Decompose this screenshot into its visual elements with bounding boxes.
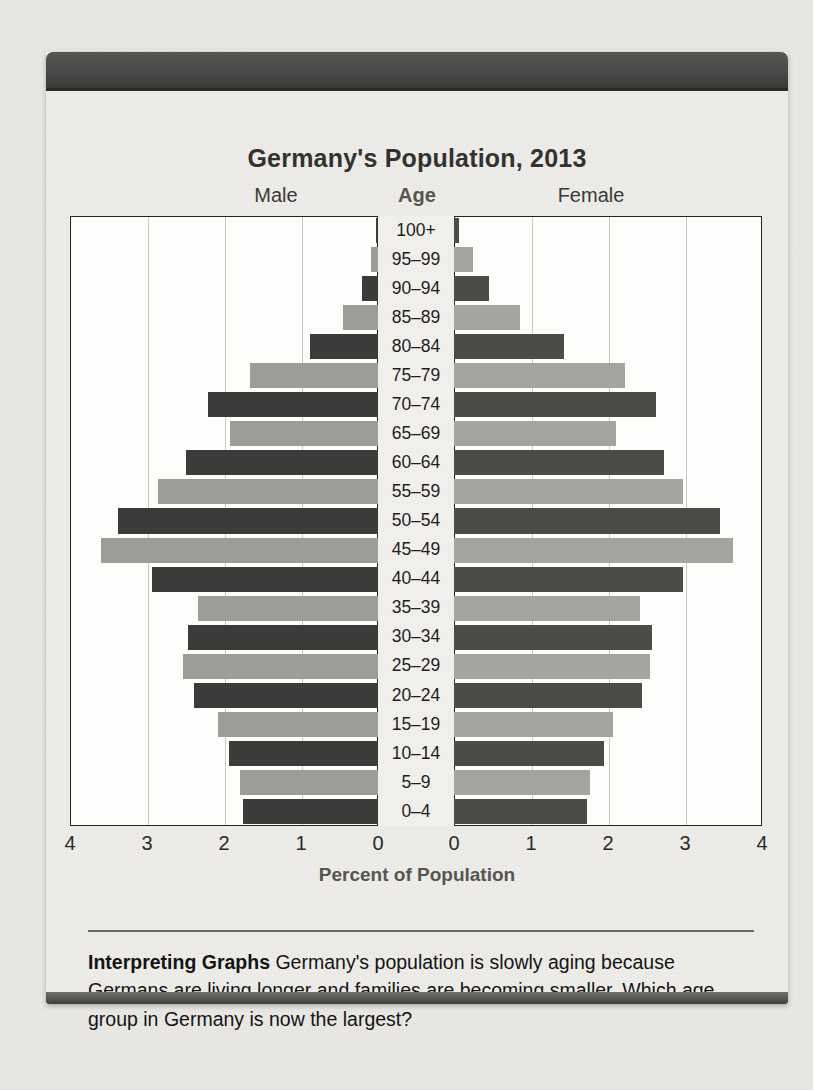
pyramid-row — [454, 594, 762, 623]
pyramid-row — [70, 797, 378, 826]
pyramid-row — [70, 419, 378, 448]
age-label: 15–19 — [378, 710, 454, 739]
female-bar — [454, 683, 642, 708]
pyramid-row — [454, 797, 762, 826]
male-bar — [208, 392, 378, 417]
female-bar — [454, 247, 473, 272]
pyramid-row — [454, 506, 762, 535]
pyramid-row — [454, 768, 762, 797]
female-bar — [454, 392, 656, 417]
pyramid-row — [70, 565, 378, 594]
pyramid-row — [454, 245, 762, 274]
female-column-header: Female — [496, 184, 686, 207]
age-label: 50–54 — [378, 506, 454, 535]
age-label: 65–69 — [378, 419, 454, 448]
pyramid-row — [70, 623, 378, 652]
age-label: 5–9 — [378, 768, 454, 797]
pyramid-row — [454, 652, 762, 681]
population-pyramid-plot: 100+95–9990–9485–8980–8475–7970–7465–696… — [70, 216, 770, 826]
female-bar — [454, 741, 604, 766]
x-axis-tick-labels: 4321001234 — [70, 832, 770, 858]
age-label: 35–39 — [378, 594, 454, 623]
female-bar — [454, 596, 640, 621]
pyramid-row — [454, 681, 762, 710]
male-bar — [158, 479, 378, 504]
male-bar — [101, 538, 378, 563]
male-bar — [240, 770, 378, 795]
x-tick-right-4: 4 — [756, 832, 767, 855]
pyramid-row — [70, 681, 378, 710]
pyramid-row — [70, 506, 378, 535]
age-label: 45–49 — [378, 536, 454, 565]
x-tick-right-0: 0 — [448, 832, 459, 855]
age-label: 20–24 — [378, 681, 454, 710]
age-label: 55–59 — [378, 477, 454, 506]
age-label: 80–84 — [378, 332, 454, 361]
age-label: 85–89 — [378, 303, 454, 332]
female-bar — [454, 567, 683, 592]
male-bar — [198, 596, 378, 621]
age-label: 25–29 — [378, 652, 454, 681]
pyramid-row — [70, 536, 378, 565]
pyramid-row — [70, 652, 378, 681]
male-bar — [183, 654, 378, 679]
male-bar-group — [70, 216, 378, 826]
pyramid-row — [454, 565, 762, 594]
pyramid-row — [70, 332, 378, 361]
female-bar — [454, 305, 520, 330]
pyramid-row — [454, 390, 762, 419]
pyramid-row — [454, 536, 762, 565]
female-bar — [454, 625, 652, 650]
female-bar-group — [454, 216, 762, 826]
female-bar — [454, 334, 564, 359]
age-label-column: 100+95–9990–9485–8980–8475–7970–7465–696… — [378, 216, 454, 826]
female-bar — [454, 218, 459, 243]
pyramid-row — [70, 274, 378, 303]
age-label: 90–94 — [378, 274, 454, 303]
caption-divider — [88, 930, 754, 932]
male-bar — [362, 276, 378, 301]
pyramid-row — [70, 594, 378, 623]
pyramid-row — [454, 332, 762, 361]
pyramid-row — [70, 739, 378, 768]
male-bar — [343, 305, 378, 330]
pyramid-row — [70, 216, 378, 245]
female-bar — [454, 712, 613, 737]
pyramid-row — [70, 477, 378, 506]
female-bar — [454, 538, 733, 563]
pyramid-row — [454, 274, 762, 303]
female-bar — [454, 276, 489, 301]
female-bar — [454, 654, 650, 679]
pyramid-row — [70, 361, 378, 390]
x-tick-left-4: 4 — [64, 832, 75, 855]
x-tick-right-2: 2 — [602, 832, 613, 855]
male-bar — [188, 625, 378, 650]
x-tick-right-3: 3 — [679, 832, 690, 855]
male-bar — [243, 799, 378, 824]
male-bar — [194, 683, 378, 708]
female-bar — [454, 770, 590, 795]
x-tick-left-1: 1 — [295, 832, 306, 855]
pyramid-row — [454, 361, 762, 390]
female-bar — [454, 799, 587, 824]
male-bar — [186, 450, 379, 475]
age-label: 30–34 — [378, 623, 454, 652]
age-label: 0–4 — [378, 797, 454, 826]
pyramid-row — [70, 245, 378, 274]
pyramid-row — [454, 739, 762, 768]
age-label: 70–74 — [378, 390, 454, 419]
female-bar — [454, 479, 683, 504]
pyramid-row — [70, 710, 378, 739]
age-label: 10–14 — [378, 739, 454, 768]
card-top-bar — [46, 52, 788, 88]
age-label: 100+ — [378, 216, 454, 245]
female-bar — [454, 421, 616, 446]
age-label: 95–99 — [378, 245, 454, 274]
female-bar — [454, 450, 664, 475]
pyramid-row — [454, 216, 762, 245]
male-bar — [310, 334, 378, 359]
pyramid-row — [454, 623, 762, 652]
pyramid-row — [454, 448, 762, 477]
pyramid-row — [454, 710, 762, 739]
caption-label: Interpreting Graphs — [88, 951, 270, 973]
